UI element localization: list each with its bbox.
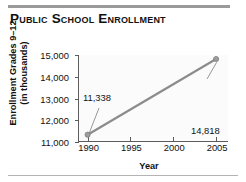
y-tick-label-15000: 15,000 bbox=[40, 50, 69, 61]
y-tick-label-12000: 12,000 bbox=[40, 115, 69, 126]
chart-figure: Public School Enrollment Enrollment Grad… bbox=[0, 0, 246, 182]
x-axis-title: Year bbox=[78, 161, 220, 171]
data-point-1990 bbox=[85, 132, 90, 137]
chart-title: Public School Enrollment bbox=[10, 11, 166, 26]
plot-area: 15,000 14,000 13,000 12,000 11,000 1990 … bbox=[78, 55, 228, 142]
y-tick-label-11000: 11,000 bbox=[41, 137, 69, 148]
y-tick-label-14000: 14,000 bbox=[40, 72, 69, 83]
x-tick-label-2000: 2000 bbox=[164, 142, 185, 153]
data-label-2005: 14,818 bbox=[191, 125, 220, 136]
x-tick-label-1990: 1990 bbox=[78, 142, 99, 153]
x-tick-label-2005: 2005 bbox=[207, 142, 228, 153]
callout-leader-end bbox=[207, 62, 217, 79]
y-axis-title: Enrollment Grades 9–12 (in thousands) bbox=[8, 13, 30, 133]
top-divider-rule bbox=[8, 5, 230, 8]
x-tick-label-1995: 1995 bbox=[121, 142, 142, 153]
y-axis-title-line1: Enrollment Grades 9–12 bbox=[8, 20, 18, 125]
y-tick-label-13000: 13,000 bbox=[40, 94, 69, 105]
data-point-2005 bbox=[214, 56, 219, 61]
bottom-divider-rule bbox=[8, 175, 238, 176]
data-label-1990: 11,338 bbox=[83, 92, 111, 103]
y-axis-title-line2: (in thousands) bbox=[19, 13, 30, 133]
